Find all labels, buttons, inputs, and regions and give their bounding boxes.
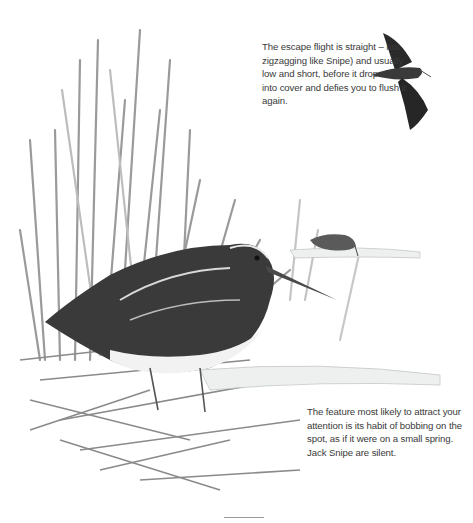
caption-bobbing-behaviour: The feature most likely to attract your … xyxy=(307,405,467,459)
caption-escape-flight: The escape flight is straight – not zigz… xyxy=(262,40,417,108)
page-rule xyxy=(224,517,264,518)
